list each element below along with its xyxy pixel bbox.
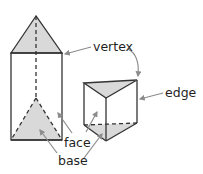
label-base: base: [58, 153, 88, 168]
label-face: face: [64, 135, 91, 150]
small-prism-top-base: [84, 80, 137, 98]
face-arrow-left: [58, 113, 72, 133]
tall-prism-bottom-base: [11, 98, 62, 140]
prism-diagram: vertex edge face base: [0, 0, 203, 174]
label-edge: edge: [165, 85, 197, 100]
vertex-arrow-left: [65, 47, 91, 54]
arrows: [40, 47, 163, 158]
small-prism: [84, 80, 137, 141]
label-vertex: vertex: [93, 39, 133, 54]
edge-arrow: [140, 93, 163, 99]
tall-prism: [11, 16, 62, 140]
